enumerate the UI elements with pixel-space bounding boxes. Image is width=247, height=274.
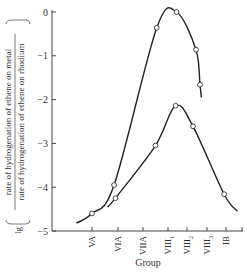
- ylabel-numerator: rate of hydrogenation of ethene on metal: [3, 48, 13, 195]
- plot-area: [76, 8, 237, 224]
- data-point-marker: [153, 143, 158, 148]
- x-tick-label: VIIA: [138, 236, 148, 255]
- x-tick-label: VIII3: [202, 236, 214, 255]
- data-point-marker: [194, 47, 199, 52]
- x-tick-label: VA: [87, 236, 97, 248]
- y-tick-label: −3: [37, 138, 48, 149]
- data-point-marker: [174, 10, 179, 15]
- data-point-marker: [198, 82, 203, 87]
- data-point-marker: [90, 211, 95, 216]
- y-tick-label: −5: [37, 226, 48, 237]
- data-point-marker: [191, 124, 196, 129]
- data-point-marker: [113, 196, 118, 201]
- x-axis-label: Group: [135, 257, 161, 268]
- ylabel-denominator: rate of hydrogenation of ethene on rhodi…: [16, 44, 26, 201]
- y-tick-label: −1: [37, 50, 48, 61]
- svg-text:lg: lg: [13, 226, 23, 234]
- data-point-marker: [154, 25, 159, 30]
- x-tick-label: VIII1: [163, 236, 175, 255]
- y-tick-label: 0: [43, 7, 48, 18]
- y-tick-label: −2: [37, 94, 48, 105]
- y-axis: 0−1−2−3−4−5: [37, 7, 56, 237]
- x-tick-label: IB: [221, 236, 231, 245]
- series-line: [108, 105, 238, 211]
- data-point-marker: [222, 192, 227, 197]
- x-tick-label: VIII2: [182, 236, 194, 255]
- chart: 0−1−2−3−4−5 VAVIAVIIAVIII1VIII2VIII3IB l…: [0, 0, 247, 274]
- x-axis: VAVIAVIIAVIII1VIII2VIII3IB: [52, 227, 243, 255]
- data-point-marker: [173, 103, 178, 108]
- y-tick-label: −4: [37, 182, 48, 193]
- data-point-marker: [112, 183, 117, 188]
- x-tick-label: VIA: [113, 236, 123, 252]
- y-axis-label: lg rate of hydrogenation of ethene on me…: [3, 20, 30, 234]
- series-line: [76, 8, 201, 224]
